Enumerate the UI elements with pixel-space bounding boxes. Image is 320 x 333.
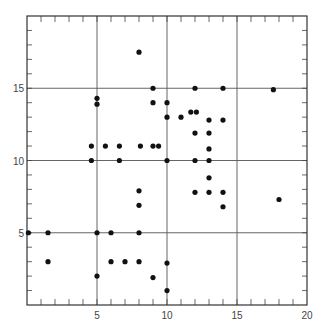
data-point xyxy=(45,230,50,235)
data-point xyxy=(164,260,169,265)
y-tick-label: 10 xyxy=(13,156,25,167)
data-point xyxy=(117,158,122,163)
data-point xyxy=(136,188,141,193)
x-tick-label: 20 xyxy=(301,310,313,321)
data-point xyxy=(108,259,113,264)
data-point xyxy=(117,143,122,148)
data-point xyxy=(276,197,281,202)
data-point xyxy=(164,100,169,105)
x-tick-label: 10 xyxy=(161,310,173,321)
data-point xyxy=(89,143,94,148)
data-point xyxy=(136,50,141,55)
data-point xyxy=(220,117,225,122)
data-point xyxy=(136,259,141,264)
data-point xyxy=(206,146,211,151)
data-point xyxy=(103,143,108,148)
data-point xyxy=(108,230,113,235)
data-point xyxy=(26,230,31,235)
data-point xyxy=(94,230,99,235)
x-tick-label: 5 xyxy=(94,310,100,321)
data-point xyxy=(136,203,141,208)
data-point xyxy=(122,259,127,264)
y-tick-label: 15 xyxy=(13,83,25,94)
data-point xyxy=(178,115,183,120)
data-point xyxy=(150,143,155,148)
data-point xyxy=(94,102,99,107)
scatter-plot: 510152051015 xyxy=(0,0,320,333)
data-point xyxy=(164,158,169,163)
data-point xyxy=(192,86,197,91)
data-point xyxy=(206,130,211,135)
data-point xyxy=(220,190,225,195)
data-point xyxy=(206,158,211,163)
data-point xyxy=(150,100,155,105)
data-point xyxy=(150,275,155,280)
data-point xyxy=(220,204,225,209)
data-point xyxy=(94,274,99,279)
data-point xyxy=(192,158,197,163)
data-point xyxy=(94,96,99,101)
data-point xyxy=(45,259,50,264)
data-point xyxy=(188,109,193,114)
y-tick-label: 5 xyxy=(18,228,24,239)
data-point xyxy=(192,190,197,195)
tick-labels: 510152051015 xyxy=(13,83,313,321)
data-point xyxy=(136,230,141,235)
data-point xyxy=(192,130,197,135)
data-point xyxy=(206,117,211,122)
data-point xyxy=(271,87,276,92)
data-point xyxy=(164,115,169,120)
data-point xyxy=(89,158,94,163)
data-point xyxy=(194,109,199,114)
data-point xyxy=(156,143,161,148)
data-point xyxy=(206,190,211,195)
data-points xyxy=(26,50,282,294)
data-point xyxy=(150,86,155,91)
x-tick-label: 15 xyxy=(231,310,243,321)
data-point xyxy=(164,288,169,293)
data-point xyxy=(138,143,143,148)
data-point xyxy=(206,175,211,180)
data-point xyxy=(220,86,225,91)
